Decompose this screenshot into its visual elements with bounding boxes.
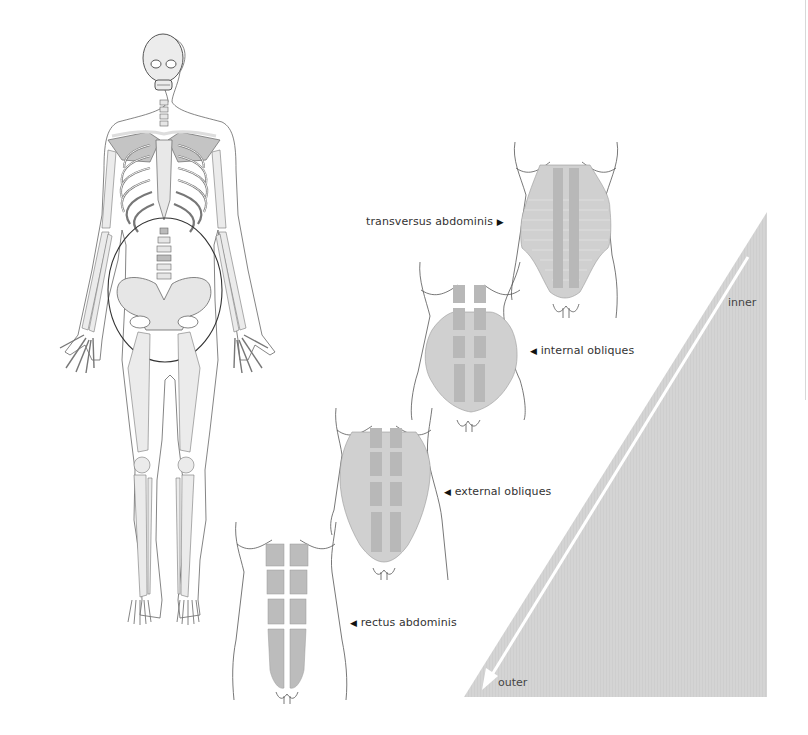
label-rectus-abdominis: ◀ rectus abdominis	[350, 616, 457, 629]
label-text: rectus abdominis	[361, 616, 457, 629]
page-edge-divider	[805, 0, 806, 400]
pointer-left-icon: ◀	[350, 618, 357, 628]
rectus-abdominis-segments	[266, 544, 308, 688]
